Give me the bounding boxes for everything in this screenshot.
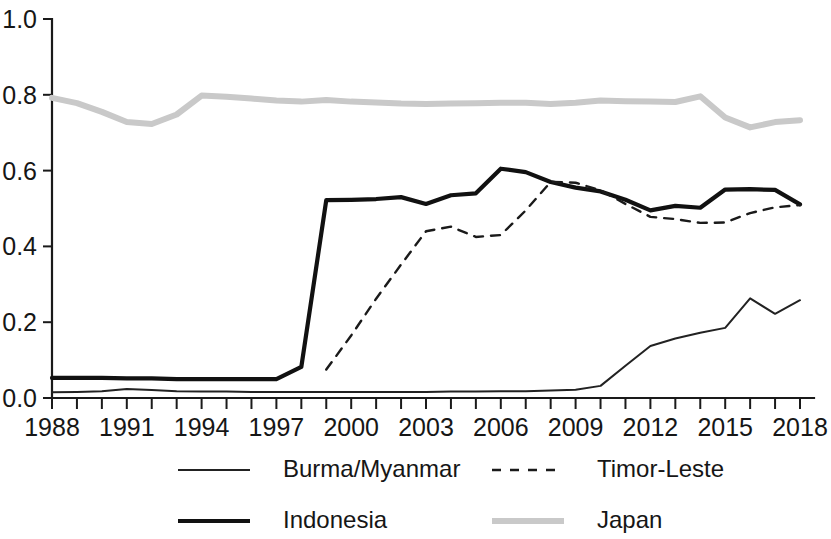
legend-label-timor-leste: Timor-Leste [597,455,724,482]
x-tick-label: 2009 [548,413,604,441]
chart-legend: Burma/MyanmarTimor-LesteIndonesiaJapan [178,455,724,533]
line-chart: 0.00.20.40.60.81.0 198819911994199720002… [0,0,831,539]
legend-label-japan: Japan [597,506,662,533]
y-tick-label: 0.6 [2,157,37,185]
series-line-timor-leste [326,182,800,370]
y-axis-tick-labels: 0.00.20.40.60.81.0 [2,5,37,412]
y-tick-label: 0.2 [2,308,37,336]
x-tick-label: 2000 [323,413,379,441]
y-tick-label: 1.0 [2,5,37,33]
series-line-japan [52,96,800,128]
x-tick-label: 1994 [174,413,230,441]
data-series-layer [52,96,800,393]
x-tick-label: 2018 [772,413,828,441]
y-tick-label: 0.0 [2,384,37,412]
x-tick-label: 2006 [473,413,529,441]
legend-label-burma-myanmar: Burma/Myanmar [283,455,460,482]
y-tick-label: 0.8 [2,81,37,109]
y-tick-label: 0.4 [2,232,37,260]
x-tick-label: 1991 [99,413,155,441]
x-tick-label: 2012 [623,413,679,441]
x-axis-tick-labels: 1988199119941997200020032006200920122015… [24,413,828,441]
x-tick-label: 1988 [24,413,80,441]
legend-label-indonesia: Indonesia [283,506,388,533]
tick-marks [43,19,800,409]
chart-figure: 0.00.20.40.60.81.0 198819911994199720002… [0,0,831,539]
series-line-indonesia [52,169,800,379]
x-tick-label: 2015 [697,413,753,441]
x-tick-label: 1997 [249,413,305,441]
x-tick-label: 2003 [398,413,454,441]
